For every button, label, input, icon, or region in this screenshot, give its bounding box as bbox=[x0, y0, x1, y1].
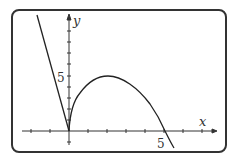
graph-plot bbox=[0, 0, 238, 164]
y-tick-label-5: 5 bbox=[57, 71, 65, 85]
y-axis-label: y bbox=[73, 13, 80, 28]
y-axis-arrow-icon bbox=[67, 14, 71, 20]
x-tick-label-5: 5 bbox=[157, 137, 165, 151]
x-axis-arrow-icon bbox=[212, 129, 217, 133]
x-axis-label: x bbox=[199, 114, 206, 129]
